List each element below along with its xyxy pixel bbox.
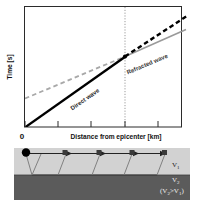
x-axis-origin-label: 0 xyxy=(20,132,25,141)
receiver-2 xyxy=(97,150,102,155)
cross-section-panel: V1 V2 (V2>V1) xyxy=(14,148,190,200)
x-axis-label: Distance from epicenter [km] xyxy=(71,133,162,141)
receiver-3 xyxy=(130,150,135,155)
seismic-travel-time-figure: 0 Distance from epicenter [km] Time [s] … xyxy=(0,0,202,200)
receiver-1 xyxy=(63,150,68,155)
travel-time-plot-panel: 0 Distance from epicenter [km] Time [s] … xyxy=(6,7,187,142)
velocity-condition-open: (V xyxy=(160,187,167,195)
plot-frame xyxy=(25,7,182,128)
y-axis-label: Time [s] xyxy=(6,54,14,79)
crossover-point xyxy=(123,54,127,58)
figure-svg: 0 Distance from epicenter [km] Time [s] … xyxy=(0,0,202,200)
receiver-4 xyxy=(162,150,167,155)
epicenter-source xyxy=(22,148,30,156)
velocity-condition-mid: >V xyxy=(170,187,179,195)
velocity-condition-label: (V2>V1) xyxy=(160,187,184,196)
